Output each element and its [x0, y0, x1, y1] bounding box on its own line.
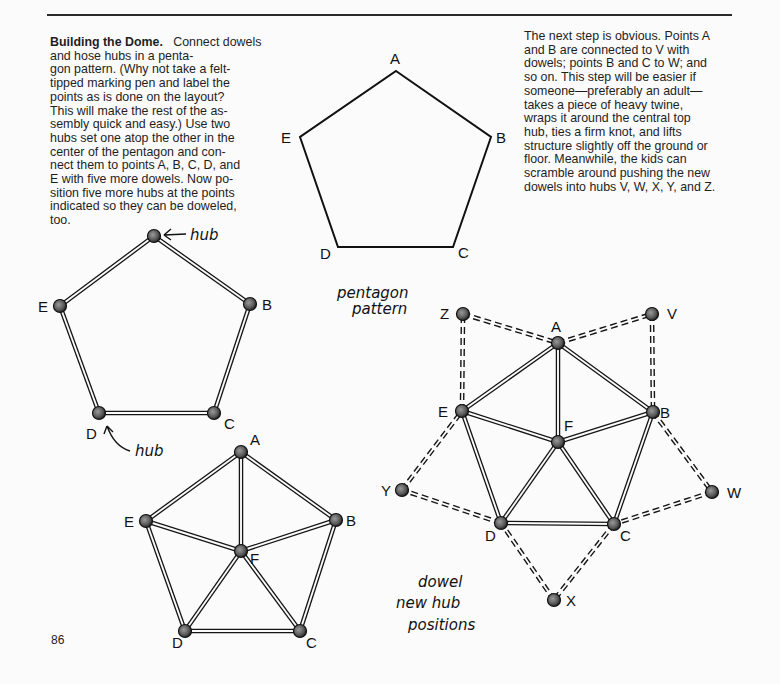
dowel-edge	[462, 413, 558, 444]
dowel-edge	[461, 342, 557, 410]
dowel-edge	[184, 550, 240, 630]
dowel	[58, 305, 100, 413]
new-dowel	[558, 312, 653, 344]
dowel	[501, 521, 614, 525]
dowel-edge	[614, 490, 712, 522]
point-label-x: X	[566, 592, 576, 609]
dowel-edge	[616, 413, 655, 525]
new-dowel	[401, 410, 464, 491]
new-dowel	[463, 312, 559, 344]
dowel	[500, 441, 560, 524]
positions-caption-line3: positions	[407, 616, 475, 634]
dowel-edge	[59, 235, 153, 305]
dowel-edge	[557, 344, 652, 413]
hub	[294, 625, 307, 638]
new-dowel	[614, 490, 713, 525]
point-label-b: B	[660, 404, 670, 421]
dowel-edge	[147, 453, 242, 522]
hub-pentagon-figure	[54, 230, 257, 420]
new-dowel	[500, 522, 556, 601]
dowel	[99, 411, 214, 414]
hub	[456, 405, 469, 418]
dowel	[461, 342, 559, 413]
dowel-edge	[555, 525, 615, 601]
new-dowel	[652, 411, 714, 493]
hub	[330, 514, 343, 527]
dowel-edge	[241, 518, 336, 549]
dowel	[153, 235, 251, 306]
point-label-y: Y	[381, 482, 391, 499]
dowel-edge	[298, 520, 334, 631]
dowel	[59, 235, 155, 308]
point-label-d: D	[86, 425, 97, 442]
dowel	[212, 303, 251, 413]
hub	[208, 407, 221, 420]
hub-annotation-bottom: hub	[104, 426, 164, 460]
dowel-edge	[58, 307, 97, 414]
dowel-edge	[501, 521, 614, 522]
dowel-edge	[553, 523, 613, 599]
dowel	[612, 411, 654, 524]
dowel-edge	[557, 443, 613, 525]
dowel-edge	[144, 522, 183, 632]
point-label-b: B	[262, 296, 272, 313]
dowel	[145, 451, 242, 523]
point-label-f: F	[564, 417, 573, 434]
dowel-edge	[463, 316, 558, 345]
dowel-edge	[464, 410, 503, 522]
dowel-edge	[612, 411, 651, 523]
point-label-a: A	[390, 50, 400, 67]
new-hub-positions-figure	[396, 308, 719, 607]
hub	[608, 518, 621, 531]
hub-note-bottom: hub	[135, 442, 164, 460]
dowel-edge	[403, 488, 502, 521]
dowel-edge	[403, 412, 463, 491]
dowel-edge	[558, 316, 652, 345]
new-dowel	[401, 488, 501, 524]
pentagon-caption-line2: pattern	[351, 300, 407, 318]
hub-note-top: hub	[190, 226, 219, 244]
dowel	[240, 550, 302, 632]
point-label-v: V	[667, 305, 677, 322]
hub	[646, 308, 659, 321]
center-hub-pentagon-figure	[140, 446, 343, 638]
dowel-edge	[155, 235, 251, 303]
dowel-edge	[654, 411, 713, 491]
dowel	[556, 343, 559, 442]
dowel-edge	[460, 314, 461, 411]
new-dowel	[553, 523, 616, 601]
point-label-b: B	[496, 129, 506, 146]
point-label-z: Z	[440, 305, 449, 322]
dowel-edge	[464, 314, 465, 411]
dowel	[184, 550, 243, 632]
dowel	[239, 452, 242, 551]
point-label-a: A	[551, 318, 561, 335]
dowel	[185, 629, 300, 632]
dowel-edge	[652, 413, 711, 493]
dowel-edge	[240, 453, 335, 521]
point-label-w: W	[727, 484, 742, 501]
illustrations: A B C D E pentagon pattern E B C D hub h…	[0, 0, 780, 684]
dowel-edge	[148, 520, 187, 630]
dowel-edge	[614, 494, 712, 526]
dowel-edge	[146, 519, 241, 549]
hub	[548, 594, 561, 607]
dowel-edge	[216, 305, 252, 414]
dowel-edge	[186, 552, 242, 632]
dowel-edge	[559, 441, 615, 523]
hub	[54, 300, 67, 313]
dowel	[460, 410, 502, 523]
dowel-edge	[654, 314, 655, 412]
point-label-f: F	[250, 550, 259, 567]
dowel-edge	[62, 305, 101, 412]
new-dowel	[650, 314, 654, 412]
dowel-edge	[240, 552, 299, 632]
dowel-edge	[153, 237, 249, 305]
hub	[235, 446, 248, 459]
dowel-edge	[242, 451, 337, 519]
arrow-icon	[104, 426, 130, 451]
hub	[552, 436, 565, 449]
new-dowel	[460, 314, 464, 411]
dowel-edge	[500, 441, 557, 522]
dowel-edge	[145, 451, 240, 520]
